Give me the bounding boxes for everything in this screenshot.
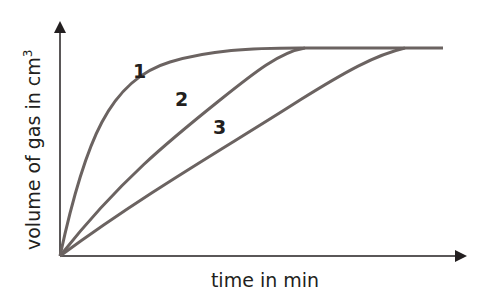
curve-3-label: 3: [213, 116, 226, 138]
chart: 1 2 3 time in min volume of gas in cm3: [0, 0, 478, 305]
curve-1: [60, 48, 443, 256]
y-axis-label: volume of gas in cm3: [21, 50, 44, 250]
curve-2: [60, 48, 305, 256]
y-axis-label-superscript: 3: [21, 50, 35, 58]
x-axis-label: time in min: [211, 269, 319, 291]
curve-1-label: 1: [133, 60, 146, 82]
curve-2-label: 2: [175, 88, 188, 110]
curve-3: [60, 48, 405, 256]
